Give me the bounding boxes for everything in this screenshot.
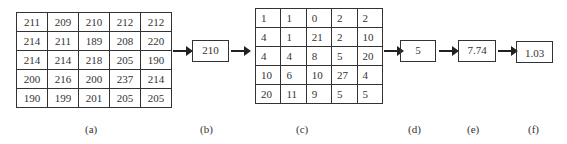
right-arrow-icon xyxy=(439,44,459,58)
matrix-row: 211 209 210 212 212 xyxy=(17,13,172,32)
matrix-cell: 6 xyxy=(281,66,306,85)
matrix-row: 200 216 200 237 214 xyxy=(17,70,172,89)
matrix-cell: 209 xyxy=(48,13,79,32)
value-box-f: 1.03 xyxy=(516,41,553,63)
matrix-cell: 5 xyxy=(357,85,382,104)
matrix-cell: 201 xyxy=(79,89,110,108)
matrix-cell: 8 xyxy=(306,47,331,66)
matrix-cell: 208 xyxy=(110,32,141,51)
matrix-row: 214 214 218 205 190 xyxy=(17,51,172,70)
matrix-cell: 210 xyxy=(79,13,110,32)
matrix-cell: 1 xyxy=(281,9,306,28)
pixel-matrix-a: 211 209 210 212 212 214 211 189 208 220 … xyxy=(16,12,172,108)
matrix-cell: 218 xyxy=(79,51,110,70)
matrix-cell: 5 xyxy=(332,47,357,66)
matrix-cell: 189 xyxy=(79,32,110,51)
matrix-cell: 5 xyxy=(332,85,357,104)
matrix-row: 10 6 10 27 4 xyxy=(256,66,383,85)
matrix-cell: 214 xyxy=(17,51,48,70)
matrix-cell: 9 xyxy=(306,85,331,104)
matrix-cell: 10 xyxy=(357,28,382,47)
difference-matrix-c: 1 1 0 2 2 4 1 21 2 10 4 4 8 5 20 10 6 10… xyxy=(255,8,383,104)
matrix-cell: 1 xyxy=(281,28,306,47)
matrix-cell: 0 xyxy=(306,9,331,28)
matrix-row: 1 1 0 2 2 xyxy=(256,9,383,28)
caption-e: (e) xyxy=(467,123,479,135)
matrix-cell: 21 xyxy=(306,28,331,47)
matrix-cell: 212 xyxy=(110,13,141,32)
matrix-cell: 190 xyxy=(141,51,172,70)
matrix-cell: 11 xyxy=(281,85,306,104)
matrix-cell: 199 xyxy=(48,89,79,108)
matrix-cell: 20 xyxy=(256,85,281,104)
matrix-cell: 2 xyxy=(332,28,357,47)
matrix-cell: 205 xyxy=(110,51,141,70)
matrix-row: 4 1 21 2 10 xyxy=(256,28,383,47)
matrix-cell: 200 xyxy=(79,70,110,89)
matrix-cell: 214 xyxy=(141,70,172,89)
matrix-cell: 4 xyxy=(281,47,306,66)
matrix-cell: 211 xyxy=(48,32,79,51)
matrix-cell: 20 xyxy=(357,47,382,66)
caption-f: (f) xyxy=(528,123,539,135)
right-arrow-icon xyxy=(173,44,193,58)
matrix-cell: 214 xyxy=(17,32,48,51)
matrix-cell: 220 xyxy=(141,32,172,51)
matrix-cell: 4 xyxy=(256,47,281,66)
right-arrow-icon xyxy=(231,44,251,58)
matrix-cell: 211 xyxy=(17,13,48,32)
matrix-row: 4 4 8 5 20 xyxy=(256,47,383,66)
caption-d: (d) xyxy=(408,123,421,135)
matrix-cell: 212 xyxy=(141,13,172,32)
caption-a: (a) xyxy=(85,123,97,135)
value-box-e: 7.74 xyxy=(458,40,496,62)
matrix-cell: 10 xyxy=(306,66,331,85)
matrix-cell: 4 xyxy=(256,28,281,47)
matrix-cell: 216 xyxy=(48,70,79,89)
matrix-cell: 4 xyxy=(357,66,382,85)
value-box-d: 5 xyxy=(400,40,436,62)
matrix-cell: 27 xyxy=(332,66,357,85)
matrix-cell: 237 xyxy=(110,70,141,89)
matrix-cell: 2 xyxy=(357,9,382,28)
matrix-cell: 214 xyxy=(48,51,79,70)
caption-b: (b) xyxy=(200,123,213,135)
matrix-cell: 10 xyxy=(256,66,281,85)
matrix-cell: 2 xyxy=(332,9,357,28)
matrix-row: 20 11 9 5 5 xyxy=(256,85,383,104)
matrix-cell: 205 xyxy=(141,89,172,108)
matrix-cell: 200 xyxy=(17,70,48,89)
value-box-b: 210 xyxy=(192,40,229,62)
matrix-row: 190 199 201 205 205 xyxy=(17,89,172,108)
matrix-cell: 205 xyxy=(110,89,141,108)
matrix-row: 214 211 189 208 220 xyxy=(17,32,172,51)
matrix-cell: 1 xyxy=(256,9,281,28)
caption-c: (c) xyxy=(296,123,308,135)
matrix-cell: 190 xyxy=(17,89,48,108)
right-arrow-icon xyxy=(498,44,518,58)
